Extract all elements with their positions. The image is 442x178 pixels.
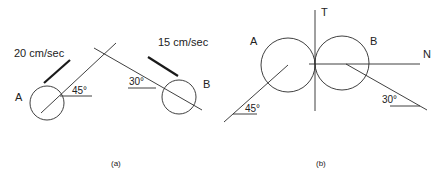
ball-a-speed: 20 cm/sec [14, 47, 65, 59]
ball-a-circle [30, 86, 64, 120]
ball-a-angle: 45° [72, 85, 87, 96]
caption-b: (b) [316, 159, 326, 168]
ball-b-velocity-arrow [148, 57, 178, 76]
ball-b-angle: 30° [129, 76, 144, 87]
ball-a-label: A [15, 91, 23, 103]
ball-b-angle: 30° [382, 94, 397, 105]
ball-b-label: B [203, 78, 210, 90]
normal-axis-label: N [423, 48, 431, 60]
ball-a-velocity-arrow [44, 60, 70, 83]
caption-a: (a) [111, 159, 121, 168]
ball-a-label: A [250, 35, 258, 47]
collision-diagram: 20 cm/sec 15 cm/sec A B 45° 30° (a) T N … [0, 0, 442, 178]
ball-a-angle: 45° [245, 103, 260, 114]
tangent-axis-label: T [321, 6, 328, 18]
ball-b-speed: 15 cm/sec [158, 36, 209, 48]
figure-a: 20 cm/sec 15 cm/sec A B 45° 30° (a) [14, 36, 210, 168]
figure-b: T N A B 45° 30° (b) [224, 6, 431, 168]
ball-b-label: B [370, 35, 377, 47]
ball-b-circle [315, 36, 369, 90]
